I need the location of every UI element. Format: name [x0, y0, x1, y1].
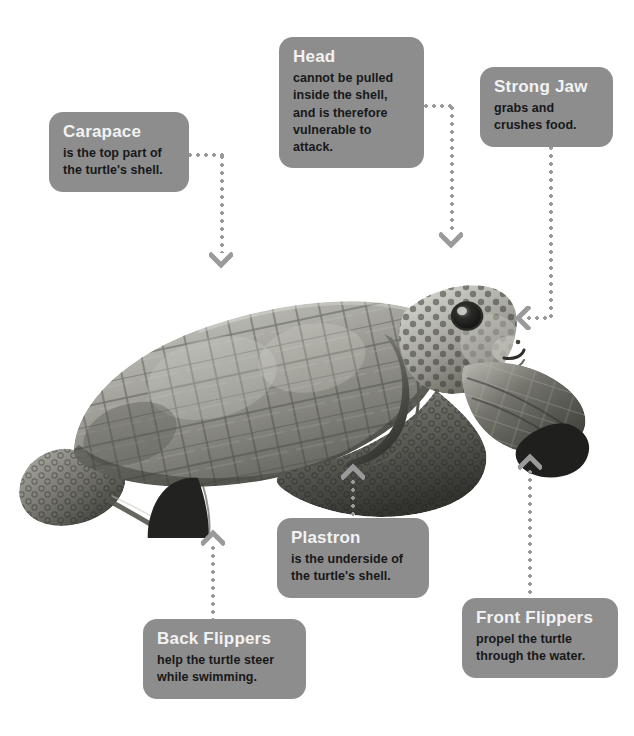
connector-plastron-vertical [351, 480, 355, 518]
callout-head-body: cannot be pulled inside the shell, and i… [293, 70, 410, 156]
callout-strong-jaw-body: grabs and crushes food. [494, 100, 599, 135]
callout-head[interactable]: Head cannot be pulled inside the shell, … [279, 37, 424, 168]
connector-carapace-horizontal [188, 153, 224, 157]
callout-front-flippers-title: Front Flippers [476, 608, 604, 627]
callout-strong-jaw-title: Strong Jaw [494, 77, 599, 96]
connector-back-flippers-vertical [211, 546, 215, 619]
callout-plastron-body: is the underside of the turtle's shell. [291, 551, 415, 586]
connector-carapace-vertical [220, 155, 224, 253]
connector-jaw-vertical [549, 146, 553, 318]
callout-front-flippers[interactable]: Front Flippers propel the turtle through… [462, 598, 618, 678]
connector-head-vertical [450, 106, 454, 233]
callout-carapace-body: is the top part of the turtle's shell. [63, 145, 175, 180]
diagram-canvas: Carapace is the top part of the turtle's… [0, 0, 634, 736]
callout-front-flippers-body: propel the turtle through the water. [476, 631, 604, 666]
callout-plastron[interactable]: Plastron is the underside of the turtle'… [277, 518, 429, 598]
callout-strong-jaw[interactable]: Strong Jaw grabs and crushes food. [480, 67, 613, 147]
connector-front-flippers-vertical [528, 470, 532, 598]
callout-back-flippers[interactable]: Back Flippers help the turtle steer whil… [143, 619, 306, 699]
callout-carapace-title: Carapace [63, 122, 175, 141]
callout-head-title: Head [293, 47, 410, 66]
callout-carapace[interactable]: Carapace is the top part of the turtle's… [49, 112, 189, 192]
callout-back-flippers-body: help the turtle steer while swimming. [157, 652, 292, 687]
callout-plastron-title: Plastron [291, 528, 415, 547]
sea-turtle-photo [12, 238, 612, 538]
callout-back-flippers-title: Back Flippers [157, 629, 292, 648]
